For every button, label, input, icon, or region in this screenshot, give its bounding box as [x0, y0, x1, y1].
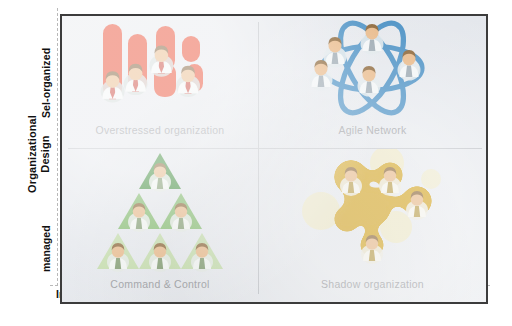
y-axis-top-label: Sel-organized [40, 48, 52, 118]
y-axis-title-line1: Organizational [26, 115, 38, 193]
quadrant-bottom-left-caption: Command & Control [62, 278, 258, 290]
y-axis-bottom-label: managed [40, 225, 52, 272]
blob-network-people-icon [259, 149, 486, 279]
quadrant-diagram: Organizational Design Sel-organized mana… [0, 0, 512, 326]
quadrant-bottom-left: Command & Control [62, 149, 258, 302]
quadrant-top-right-caption: Agile Network [259, 124, 486, 136]
chart-plot-area: Overstressed organization [60, 14, 488, 304]
quadrant-top-right: Agile Network [259, 16, 486, 148]
quadrant-top-left-caption: Overstressed organization [62, 124, 258, 136]
atom-network-people-icon [259, 16, 486, 128]
quadrant-bottom-right: Shadow organization [259, 149, 486, 302]
dashed-vertical-guide [57, 8, 58, 286]
quadrant-top-left: Overstressed organization [62, 16, 258, 148]
quadrant-bottom-right-caption: Shadow organization [259, 278, 486, 290]
stress-bars-people-icon [62, 16, 258, 128]
pyramid-hierarchy-people-icon [62, 149, 258, 279]
